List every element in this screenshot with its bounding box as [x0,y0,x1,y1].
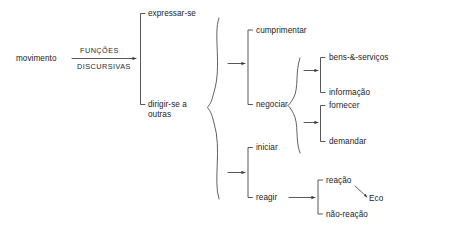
connector-reacao-eco [355,186,367,197]
edge-label-funcoes: FUNÇÕES [80,46,119,55]
node-dirigir-se-a-outras: dirigir-se a outras [148,100,208,119]
node-nao-reacao: não-reação [326,210,368,220]
node-reagir: reagir [256,193,277,203]
node-bens-e-servicos: bens-&-serviços [329,53,388,63]
node-movimento: movimento [16,54,57,64]
bracket-negociar-b [321,106,326,142]
node-iniciar: iniciar [256,143,278,153]
node-demandar: demandar [329,137,366,147]
brace-dirigir-se [208,18,220,199]
bracket-reagir [318,180,323,214]
brace-negociar [288,58,300,153]
node-cumprimentar: cumprimentar [256,26,307,36]
node-negociar: negociar [256,100,288,110]
bracket-upper [248,30,253,105]
node-eco: Eco [369,194,383,204]
bracket-lower [248,148,253,198]
node-expressar-se: expressar-se [148,9,196,19]
node-fornecer: fornecer [329,101,359,111]
tree-diagram: movimento FUNÇÕES DISCURSIVAS expressar-… [0,0,458,229]
diagram-connectors [0,0,458,229]
node-informacao: informação [329,88,370,98]
edge-label-discursivas: DISCURSIVAS [77,62,131,71]
bracket-level1 [141,14,146,105]
bracket-negociar-a [321,58,326,93]
node-reacao: reação [326,176,351,186]
